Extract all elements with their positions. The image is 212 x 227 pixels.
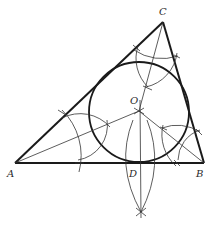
construction-arcs-c (133, 45, 180, 90)
center-o-mark (134, 108, 144, 114)
label-c: C (159, 6, 167, 17)
label-o: O (130, 95, 138, 106)
label-a: A (6, 168, 14, 179)
incircle (89, 62, 189, 162)
incircle-diagram: C O A D B (0, 0, 212, 227)
triangle-abc (15, 22, 204, 163)
label-b: B (195, 168, 203, 179)
side-ac (15, 22, 163, 163)
bisector-b (139, 111, 204, 163)
bisector-a (15, 111, 139, 163)
label-d: D (128, 168, 137, 179)
angle-bisectors (15, 22, 204, 163)
perpendicular-od (140, 100, 141, 218)
